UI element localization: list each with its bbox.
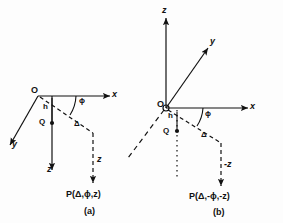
panel-a-depth-label: z bbox=[97, 155, 102, 164]
panel-a-radial-delta-label: Δ bbox=[74, 120, 80, 128]
panel-a-height-label: h bbox=[43, 103, 48, 111]
panel-b-point-p-label: P(Δ,-ϕ,-z) bbox=[189, 192, 230, 201]
panel-a-point-q-dot bbox=[50, 121, 54, 125]
panel-a-y-axis-label: y bbox=[12, 140, 17, 149]
panel-b-x-axis-label: x bbox=[250, 102, 255, 111]
panel-b-point-q-label: Q bbox=[163, 127, 169, 135]
panel-a-point-p-label: P(Δ,ϕ,z) bbox=[66, 190, 101, 199]
panel-b-y-axis-line bbox=[166, 48, 208, 108]
panel-a-y-axis-line bbox=[10, 96, 38, 145]
panel-a-angle-phi-label: ϕ bbox=[79, 97, 85, 105]
panel-b-phi-arc bbox=[197, 108, 203, 126]
panel-b-point-q-dot bbox=[175, 129, 179, 133]
panel-b-depth-label: -z bbox=[224, 160, 232, 169]
panel-b-delta-line bbox=[168, 110, 221, 143]
panel-b-height-label: h bbox=[168, 112, 173, 120]
panel-b-y-axis-label: y bbox=[210, 37, 215, 46]
panel-a-geometry bbox=[10, 96, 110, 183]
panel-b-z-axis-label: z bbox=[162, 6, 167, 15]
coordinate-systems-figure: O x y z h Q ϕ Δ z P(Δ,ϕ,z) (a) O x y z h… bbox=[0, 0, 283, 223]
panel-a-origin-label: O bbox=[31, 86, 38, 95]
panel-b-caption: (b) bbox=[213, 208, 225, 217]
panel-a-caption: (a) bbox=[84, 207, 95, 216]
panel-b-angle-phi-label: ϕ bbox=[205, 110, 211, 118]
panel-a-x-axis-label: x bbox=[112, 90, 117, 99]
panel-a-phi-arc bbox=[70, 96, 76, 115]
panel-b-radial-delta-label: Δ bbox=[201, 131, 207, 139]
panel-b-origin-label: O bbox=[157, 100, 164, 109]
figure-canvas bbox=[0, 0, 283, 223]
panel-a-point-q-label: Q bbox=[39, 118, 45, 126]
panel-b-negative-y-axis-line bbox=[128, 110, 164, 158]
panel-a-z-axis-label: z bbox=[47, 165, 52, 174]
